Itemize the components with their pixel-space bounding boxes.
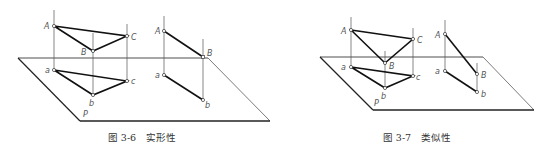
label-seg-A: A [434, 31, 440, 40]
triangle-ABC [54, 26, 127, 51]
label-B: B [81, 48, 87, 57]
point-seg-a [162, 73, 165, 76]
label-C: C [131, 33, 137, 42]
triangle-abc [54, 70, 127, 95]
plane-edge-left [320, 57, 373, 110]
label-b: b [381, 92, 386, 101]
segment-AB [445, 34, 477, 74]
point-B [91, 49, 94, 52]
label-seg-B: B [481, 71, 487, 80]
label-C: C [417, 36, 423, 45]
point-C [125, 34, 128, 37]
point-seg-B [475, 72, 478, 75]
label-a: a [341, 63, 346, 72]
point-A [349, 28, 352, 31]
caption-fig-3-6: 图 3-6 实形性 [108, 132, 176, 143]
label-plane-P: P [83, 110, 88, 119]
point-c [411, 74, 414, 77]
point-C [411, 37, 414, 40]
plane-edge-right [208, 58, 270, 121]
label-seg-A: A [154, 27, 160, 36]
point-c [125, 79, 128, 82]
label-seg-a: a [155, 71, 160, 80]
label-A: A [43, 22, 49, 31]
segment-ab [445, 71, 477, 92]
figure-3-6: A C B a c b A B a b P 图 3-6 实形性 [18, 10, 270, 143]
caption-fig-3-7: 图 3-7 类似性 [383, 132, 451, 143]
point-B [383, 61, 386, 64]
label-plane-P: P [374, 99, 379, 108]
label-c: c [131, 77, 136, 86]
segment-AB [164, 31, 203, 57]
point-b [383, 86, 386, 89]
point-A [52, 24, 55, 27]
point-a [52, 68, 55, 71]
point-b [91, 93, 94, 96]
point-seg-a [443, 69, 446, 72]
label-B: B [389, 62, 395, 71]
label-seg-b: b [205, 101, 210, 110]
label-seg-B: B [207, 49, 213, 58]
triangle-ABC [351, 30, 413, 63]
triangle-abc [351, 67, 413, 88]
point-seg-b [475, 90, 478, 93]
figure-3-7: A C B a c b A B a b P 图 3-7 类似性 [320, 17, 534, 143]
point-seg-A [162, 29, 165, 32]
label-a: a [45, 66, 50, 75]
label-seg-a: a [435, 67, 440, 76]
label-b: b [89, 99, 94, 108]
label-A: A [340, 27, 346, 36]
point-a [349, 65, 352, 68]
projection-diagrams: A C B a c b A B a b P 图 3-6 实形性 [0, 0, 550, 151]
label-c: c [416, 73, 421, 82]
label-seg-b: b [481, 90, 486, 99]
point-seg-A [443, 32, 446, 35]
point-seg-B [201, 55, 204, 58]
segment-ab [164, 75, 203, 100]
plane-edge-right [483, 57, 534, 110]
